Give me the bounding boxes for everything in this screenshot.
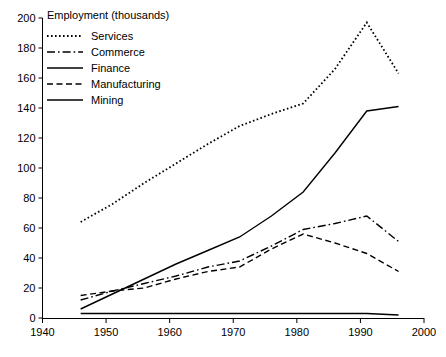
- x-tick-label: 1990: [348, 326, 372, 338]
- legend-label-finance: Finance: [91, 62, 130, 74]
- x-tick-label: 1950: [94, 326, 118, 338]
- y-tick-label: 100: [17, 162, 35, 174]
- x-tick-label: 1940: [30, 326, 54, 338]
- y-tick-label: 140: [17, 102, 35, 114]
- y-tick-label: 180: [17, 42, 35, 54]
- y-tick-label: 200: [17, 12, 35, 24]
- x-tick-label: 2000: [412, 326, 436, 338]
- employment-line-chart: 020406080100120140160180200 194019501960…: [0, 0, 446, 357]
- y-tick-label: 0: [29, 312, 35, 324]
- y-tick-label: 40: [23, 252, 35, 264]
- chart-background: [0, 0, 446, 357]
- legend-label-manufacturing: Manufacturing: [91, 78, 161, 90]
- y-tick-label: 120: [17, 132, 35, 144]
- chart-canvas: 020406080100120140160180200 194019501960…: [0, 0, 446, 357]
- x-tick-label: 1980: [285, 326, 309, 338]
- legend-label-commerce: Commerce: [91, 46, 145, 58]
- y-tick-label: 20: [23, 282, 35, 294]
- y-axis-title: Employment (thousands): [47, 9, 169, 21]
- x-tick-label: 1960: [157, 326, 181, 338]
- y-tick-label: 160: [17, 72, 35, 84]
- legend-label-services: Services: [91, 30, 134, 42]
- x-tick-label: 1970: [221, 326, 245, 338]
- y-tick-label: 80: [23, 192, 35, 204]
- y-tick-label: 60: [23, 222, 35, 234]
- legend-label-mining: Mining: [91, 94, 123, 106]
